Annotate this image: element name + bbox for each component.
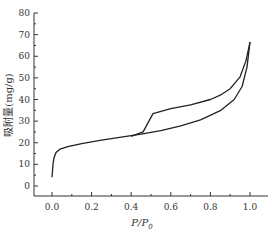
x-tick-label: 0.8 — [203, 202, 218, 212]
y-tick-label: 80 — [19, 8, 31, 18]
x-tick-label: 0.4 — [124, 202, 139, 212]
y-tick-label: 70 — [19, 30, 31, 40]
x-tick-label: 1.0 — [243, 202, 258, 212]
x-axis-ticks: 0.00.20.40.60.81.0 — [45, 192, 258, 212]
y-tick-label: 50 — [19, 73, 31, 83]
y-tick-label: 40 — [19, 95, 31, 105]
axes — [34, 13, 268, 196]
y-tick-label: 60 — [19, 51, 31, 61]
x-tick-label: 0.2 — [84, 202, 98, 212]
y-tick-label: 0 — [24, 181, 30, 191]
y-tick-label: 20 — [19, 138, 31, 148]
data-series — [52, 42, 250, 177]
y-axis-label: 吸附量(mg/g) — [2, 73, 14, 137]
y-tick-label: 10 — [19, 159, 31, 169]
x-axis-label: P/P0 — [130, 217, 153, 231]
x-axis-label-sub: 0 — [148, 223, 153, 231]
x-tick-label: 0.0 — [45, 202, 60, 212]
x-tick-label: 0.6 — [164, 202, 179, 212]
y-tick-label: 30 — [19, 116, 31, 126]
x-axis-label-main: P/P — [130, 217, 148, 228]
adsorption-curve — [52, 42, 250, 177]
isotherm-chart: 01020304050607080 0.00.20.40.60.81.0 吸附量… — [0, 0, 275, 233]
y-axis-ticks: 01020304050607080 — [19, 8, 38, 191]
